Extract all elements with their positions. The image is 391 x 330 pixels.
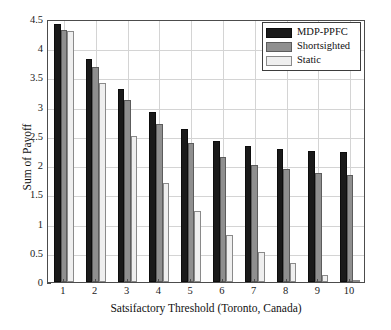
legend-label-static: Static xyxy=(297,55,321,66)
legend-label-shortsighted: Shortsighted xyxy=(297,41,350,52)
y-axis-title: Sum of Payoff xyxy=(21,77,33,237)
bar xyxy=(194,211,201,282)
y-tick-label: 0 xyxy=(38,278,43,289)
x-tick-label: 2 xyxy=(92,286,97,297)
x-tick-mark xyxy=(63,279,64,283)
x-tick-mark xyxy=(317,279,318,283)
legend-entry-mdp-ppfc: MDP-PPFC xyxy=(266,26,356,39)
bar xyxy=(99,83,106,282)
y-tick-label: 1 xyxy=(38,219,43,230)
bar xyxy=(163,183,170,282)
figure-canvas: 00.511.522.533.544.5 12345678910 Sum of … xyxy=(0,0,391,330)
legend-entry-shortsighted: Shortsighted xyxy=(266,40,356,53)
bar-group xyxy=(149,21,169,282)
bar xyxy=(131,136,138,282)
x-axis-tick-marks xyxy=(47,279,365,284)
x-tick-mark xyxy=(127,279,128,283)
x-tick-label: 6 xyxy=(219,286,224,297)
bar xyxy=(315,173,322,282)
x-tick-label: 5 xyxy=(187,286,192,297)
x-tick-label: 8 xyxy=(283,286,288,297)
bar xyxy=(258,252,265,282)
x-tick-mark xyxy=(254,279,255,283)
y-tick-label: 4 xyxy=(38,44,43,55)
bar xyxy=(67,31,74,282)
legend-swatch-shortsighted xyxy=(266,42,292,52)
x-tick-mark xyxy=(222,279,223,283)
x-tick-label: 7 xyxy=(251,286,256,297)
y-tick-label: 2 xyxy=(38,161,43,172)
legend: MDP-PPFC Shortsighted Static xyxy=(262,22,361,71)
legend-label-mdp-ppfc: MDP-PPFC xyxy=(297,27,348,38)
x-tick-label: 10 xyxy=(344,286,355,297)
bar xyxy=(226,235,233,282)
x-tick-mark xyxy=(95,279,96,283)
legend-swatch-static xyxy=(266,56,292,66)
x-tick-label: 1 xyxy=(60,286,65,297)
y-tick-label: 3 xyxy=(38,102,43,113)
legend-entry-static: Static xyxy=(266,54,356,67)
bar-group xyxy=(118,21,138,282)
x-tick-label: 4 xyxy=(156,286,161,297)
x-tick-mark xyxy=(158,279,159,283)
y-tick-label: 4.5 xyxy=(30,15,43,26)
x-tick-mark xyxy=(349,279,350,283)
x-tick-mark xyxy=(286,279,287,283)
bar-group xyxy=(54,21,74,282)
x-axis-title: Satsifactory Threshold (Toronto, Canada) xyxy=(47,302,365,314)
bar xyxy=(347,175,354,282)
y-tick-label: 0.5 xyxy=(30,249,43,260)
x-axis-tick-labels: 12345678910 xyxy=(47,286,365,300)
bar-group xyxy=(86,21,106,282)
x-tick-mark xyxy=(190,279,191,283)
bar-group xyxy=(213,21,233,282)
legend-swatch-mdp-ppfc xyxy=(266,28,292,38)
x-tick-label: 9 xyxy=(315,286,320,297)
page-bleed-text xyxy=(0,322,391,330)
x-tick-label: 3 xyxy=(124,286,129,297)
bar-group xyxy=(181,21,201,282)
